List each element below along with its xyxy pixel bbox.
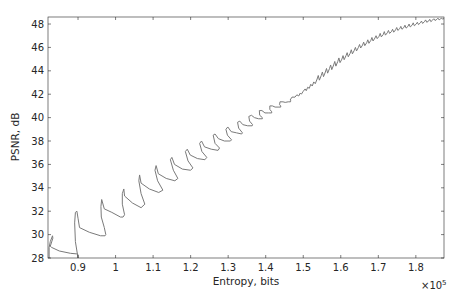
y-tick-label: 38 [31,136,44,147]
y-tick-label: 44 [31,65,44,76]
psnr-entropy-chart: 0.911.11.21.31.41.51.61.71.8 28303234363… [0,0,464,298]
x-tick-label: 1.1 [145,262,161,273]
x-multiplier-label: ×105 [421,279,447,291]
y-tick-label: 30 [31,229,44,240]
y-tick-label: 34 [31,182,44,193]
x-tick-label: 1.3 [220,262,236,273]
x-tick-label: 1.7 [370,262,386,273]
y-tick-label: 40 [31,112,44,123]
x-tick-label: 1.5 [295,262,311,273]
y-tick-label: 46 [31,42,44,53]
x-axis-label: Entropy, bits [213,275,280,287]
x-tick-label: 1.2 [183,262,199,273]
x-tick-label: 0.9 [70,262,86,273]
x-tick-label: 1 [112,262,118,273]
x-tick-label: 1.6 [333,262,349,273]
y-tick-label: 32 [31,206,44,217]
y-tick-label: 28 [31,253,44,264]
y-tick-label: 42 [31,89,44,100]
x-tick-label: 1.8 [408,262,424,273]
y-tick-label: 48 [31,19,44,30]
y-tick-label: 36 [31,159,44,170]
plot-area [48,17,444,258]
x-tick-label: 1.4 [258,262,274,273]
y-axis-label: PSNR, dB [9,113,21,162]
